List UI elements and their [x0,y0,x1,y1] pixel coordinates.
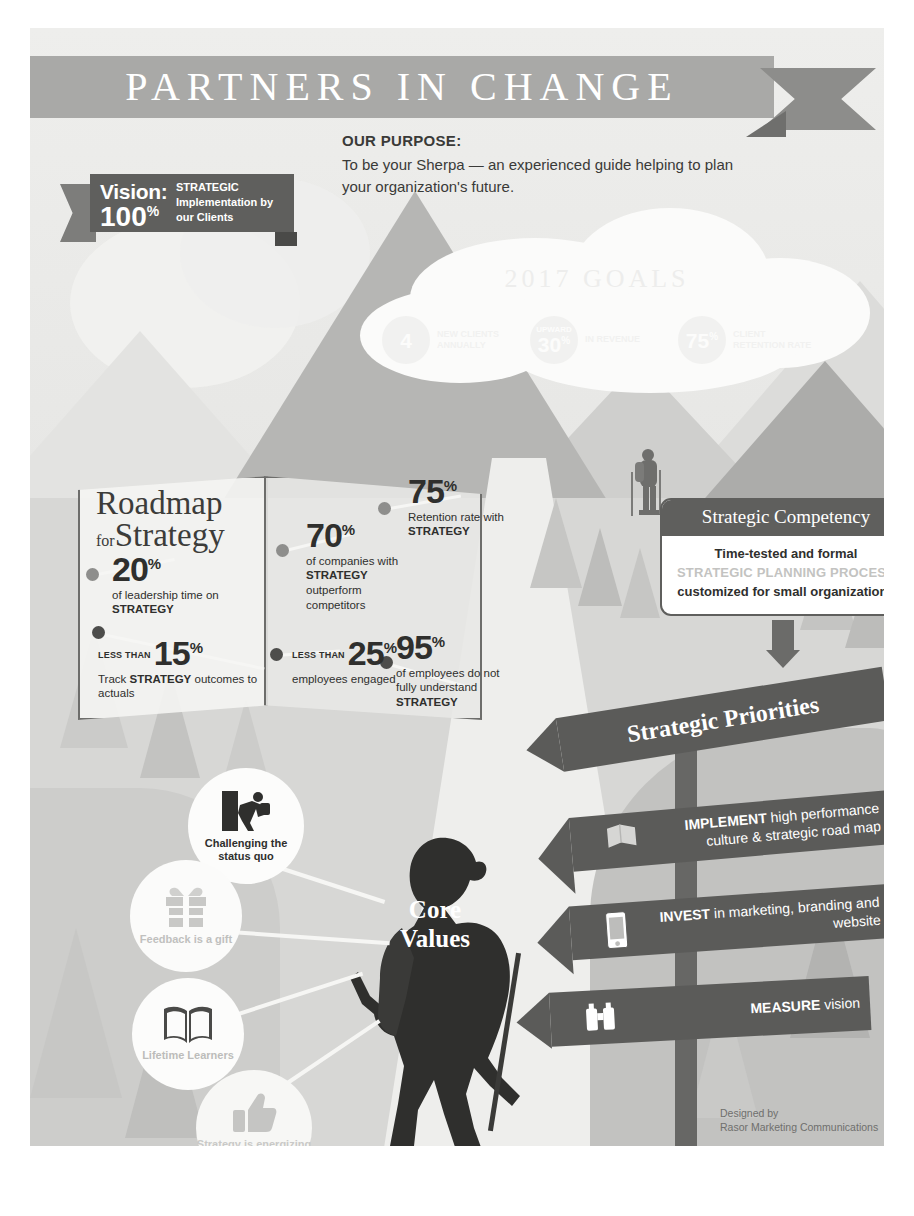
stat-number-unit: % [342,521,354,538]
stat-number-value: 20 [112,550,148,588]
stat-number: LESS THAN25% [292,638,400,669]
stat-number-value: 75 [408,472,444,510]
goal-item: 4 NEW CLIENTS ANNUALLY [382,316,523,364]
tree-11 [30,928,122,1098]
priority-lead: MEASURE [750,997,821,1017]
poster-sheet: PARTNERS IN CHANGE OUR PURPOSE: To be yo… [30,28,884,1146]
stat-number-unit: % [148,555,160,572]
competency-arrow-stem [772,620,794,654]
credit-line-1: Designed by [720,1106,878,1120]
stat-number: 75% [408,476,523,507]
vision-number-value: 100 [100,201,147,232]
competency-body: Time-tested and formal STRATEGIC PLANNIN… [662,536,884,614]
stat-20-percent: 20% of leadership time on STRATEGY [112,554,252,617]
purpose-body: To be your Sherpa — an experienced guide… [342,154,762,198]
stat-75-percent: 75% Retention rate with STRATEGY [408,476,523,539]
vision-description: STRATEGIC Implementation by our Clients [176,180,288,225]
core-value-label: Lifetime Learners [142,1049,234,1062]
stat-number-value: 70 [306,516,342,554]
stat-number-value: 95 [396,628,432,666]
core-value-label: Challenging the status quo [188,837,304,863]
climber-icon [220,789,272,833]
stat-dot [270,648,283,661]
competency-line-1: Time-tested and formal [672,545,884,564]
roadmap-title-line1: Roadmap [96,488,225,519]
stat-number: 70% [306,520,418,551]
stat-dot [276,544,289,557]
page-title: PARTNERS IN CHANGE [30,56,774,118]
priority-text: MEASURE vision [626,995,861,1025]
infographic-poster: PARTNERS IN CHANGE OUR PURPOSE: To be yo… [0,0,914,1216]
stat-95-percent: 95% of employees do not fully understand… [396,632,516,710]
stat-prefix: LESS THAN [292,651,345,660]
goal-number-value: 30 [538,333,561,356]
stat-number-value: 15 [154,634,190,672]
stat-number-unit: % [384,639,396,656]
strategic-competency-card: Strategic Competency Time-tested and for… [660,498,884,616]
stat-number: 20% [112,554,252,585]
binoculars-icon [584,1001,620,1033]
stat-dot [378,502,391,515]
stat-number-unit: % [432,633,444,650]
stat-caption: of companies with STRATEGY outperform co… [306,554,418,613]
goal-item: 75% CLIENT RETENTION RATE [678,316,819,364]
priority-rest: vision [820,995,860,1013]
stat-caption: of employees do not fully understand STR… [396,666,516,710]
mobile-phone-icon [603,910,640,950]
stat-caption: Track STRATEGY outcomes to actuals [98,672,258,701]
vision-ribbon-shadow [275,232,297,246]
roadmap-title-small: for [96,532,115,549]
goal-text: NEW CLIENTS ANNUALLY [437,329,523,352]
goal-item: UPWARD 30% IN REVENUE [530,316,671,364]
stat-number: LESS THAN15% [98,638,258,669]
flag-map-icon [603,820,640,861]
goals-section: 2017 GOALS 4 NEW CLIENTS ANNUALLY UPWARD… [382,264,812,394]
goal-number: 4 [400,330,412,351]
priority-text: IMPLEMENT high performance culture & str… [645,800,881,856]
vision-headline: Vision: 100% [100,180,168,231]
goal-text: IN REVENUE [585,334,671,345]
goal-circle: UPWARD 30% [530,316,578,364]
goal-circle: 4 [382,316,430,364]
goal-number-unit: % [709,331,718,342]
roadmap-title: Roadmap forStrategy [96,488,225,552]
stat-dot [86,568,99,581]
goal-text: CLIENT RETENTION RATE [733,329,819,352]
goal-number-value: 4 [400,329,412,352]
hiker-silhouette [306,828,556,1146]
goal-circle: 75% [678,316,726,364]
priority-rest: in marketing, branding and website [710,894,882,931]
goal-number: 30% [538,334,570,355]
thumbs-up-icon [231,1092,277,1134]
stat-caption: of leadership time on STRATEGY [112,588,252,617]
roadmap-title-line2: forStrategy [96,519,225,552]
tree-1 [530,498,582,588]
stat-prefix: LESS THAN [98,651,151,660]
design-credit: Designed by Rasor Marketing Communicatio… [720,1106,878,1134]
core-value-label: Strategy is energizing and fun [196,1138,312,1146]
core-value-label: Feedback is a gift [140,933,232,946]
vision-number-unit: % [147,203,159,219]
goal-number: 75% [686,330,718,351]
stat-25-percent: LESS THAN25% employees engaged [292,638,400,686]
goal-number-value: 75 [686,329,709,352]
stat-number-unit: % [444,477,456,494]
vision-number: 100% [100,204,168,231]
roadmap-title-strategy: Strategy [115,517,225,553]
competency-heading: Strategic Competency [662,500,884,536]
gift-box-icon [162,885,210,929]
competency-line-3: customized for small organizations [672,583,884,602]
stat-70-percent: 70% of companies with STRATEGY outperfor… [306,520,418,612]
core-value-lifetime-learners: Lifetime Learners [132,978,244,1090]
purpose-title: OUR PURPOSE: [342,132,762,149]
priority-text: INVEST in marketing, branding and websit… [645,894,881,945]
credit-line-2: Rasor Marketing Communications [720,1120,878,1134]
down-arrow-icon [766,650,800,668]
roadmap-panel: Roadmap forStrategy 20% of leadership ti… [78,446,478,716]
stat-caption: employees engaged [292,672,400,687]
purpose-block: OUR PURPOSE: To be your Sherpa — an expe… [342,132,762,198]
core-values-title-line2: Values [360,925,510,954]
priority-lead: INVEST [659,906,711,925]
stat-number: 95% [396,632,516,663]
stat-caption: Retention rate with STRATEGY [408,510,523,539]
